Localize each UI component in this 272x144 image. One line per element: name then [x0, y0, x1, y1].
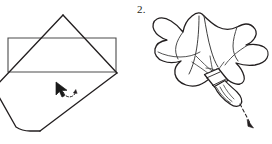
panel-left: [0, 0, 136, 144]
napkin-diamond: [0, 15, 117, 133]
dashed-pull-arrow: [240, 104, 254, 128]
panel-left-artwork: [0, 0, 136, 144]
panel-right: [136, 0, 272, 144]
panel-right-artwork: [136, 0, 272, 144]
diagram-canvas: 2.: [0, 0, 272, 144]
step-number-label: 2.: [137, 3, 146, 15]
